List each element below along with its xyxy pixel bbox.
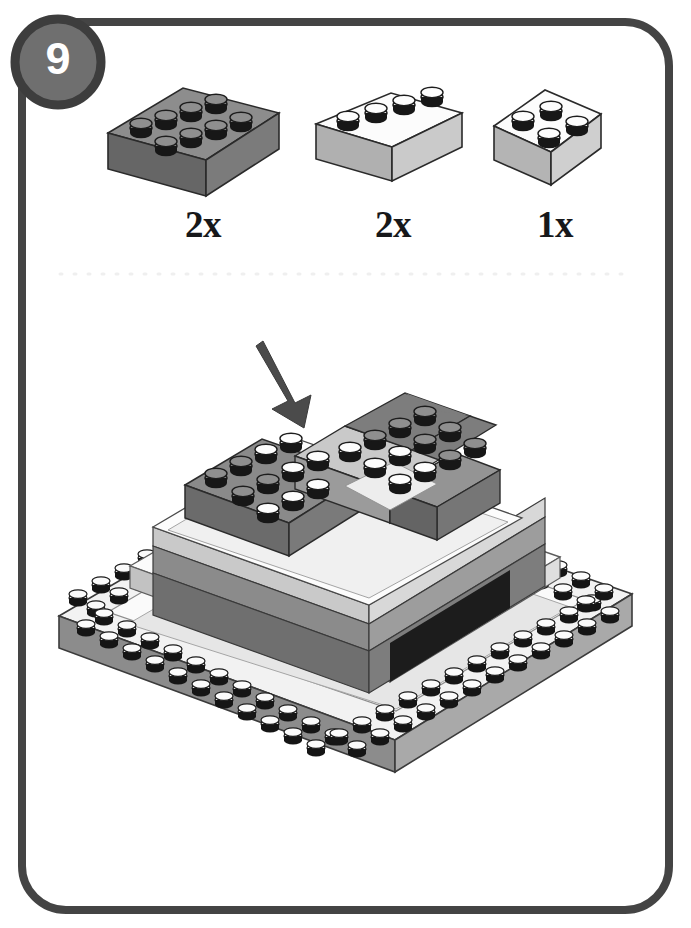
model-assembly	[59, 393, 632, 772]
part-quantity-label-3: 1x	[500, 203, 610, 246]
part-brick-1x4-light-gray	[316, 87, 462, 181]
instruction-page: 9 2x 2x 1x	[0, 0, 691, 928]
step-number: 9	[12, 36, 104, 81]
part-brick-2x2-light-gray	[494, 90, 601, 185]
placement-arrow	[256, 341, 311, 428]
part-quantity-label-2: 2x	[338, 203, 448, 246]
illustration-canvas	[0, 0, 691, 928]
part-quantity-label-1: 2x	[148, 203, 258, 246]
part-brick-2x4-dark-gray	[108, 88, 279, 196]
